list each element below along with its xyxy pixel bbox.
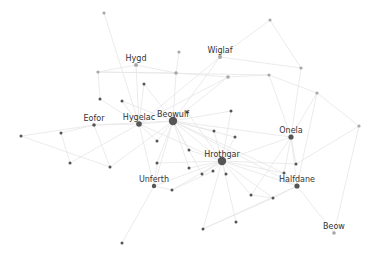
node-onela[interactable]: [288, 134, 293, 139]
edge-n16-n19: [21, 136, 110, 167]
edge-n1-hygelac: [104, 13, 139, 124]
node-n35[interactable]: [235, 221, 238, 224]
edge-n9-n10: [317, 93, 359, 126]
node-n12[interactable]: [99, 98, 102, 101]
node-n9[interactable]: [315, 91, 318, 94]
edge-n19-beowulf: [110, 121, 173, 167]
edge-n28-n27: [172, 171, 213, 190]
node-n2[interactable]: [268, 18, 271, 21]
node-label-hrothgar: Hrothgar: [204, 150, 240, 159]
node-n28[interactable]: [171, 189, 174, 192]
node-n23[interactable]: [213, 130, 216, 133]
node-n24[interactable]: [156, 162, 159, 165]
node-n18[interactable]: [69, 162, 72, 165]
edge-n17-n18: [61, 133, 70, 163]
node-n5[interactable]: [174, 71, 178, 75]
node-label-beow: Beow: [323, 222, 345, 231]
node-halfdane[interactable]: [294, 183, 299, 188]
node-n16[interactable]: [20, 135, 23, 138]
node-unferth[interactable]: [152, 184, 156, 188]
node-label-eofor: Eofor: [84, 114, 106, 123]
node-n11[interactable]: [143, 83, 146, 86]
node-n17[interactable]: [60, 132, 63, 135]
node-n27[interactable]: [212, 170, 215, 173]
edge-n4-n12: [98, 72, 100, 99]
node-n20[interactable]: [156, 140, 159, 143]
edge-beow-n10: [334, 126, 359, 233]
node-n10[interactable]: [357, 124, 360, 127]
edge-n6-n7: [228, 75, 269, 77]
edge-layer: [21, 13, 359, 243]
node-n37[interactable]: [121, 242, 124, 245]
node-n32[interactable]: [295, 163, 298, 166]
edge-n3-n5: [176, 52, 179, 73]
edge-n36-n34: [203, 198, 273, 229]
node-hygd[interactable]: [134, 63, 138, 67]
edge-hygd-n4: [98, 65, 136, 72]
edge-n2-n8: [270, 20, 301, 68]
edge-hygd-n5: [136, 65, 176, 73]
network-graph: BeowulfHrothgarHygelacOnelaHalfdaneUnfer…: [0, 0, 371, 268]
node-n4[interactable]: [96, 70, 99, 73]
edge-unferth-n28: [154, 186, 172, 190]
node-n15[interactable]: [230, 110, 233, 113]
node-label-halfdane: Halfdane: [279, 175, 315, 184]
node-hygelac[interactable]: [136, 121, 142, 127]
node-n22[interactable]: [234, 136, 237, 139]
node-n3[interactable]: [177, 50, 180, 53]
node-label-hygd: Hygd: [126, 54, 147, 63]
node-label-beowulf: Beowulf: [157, 110, 189, 119]
edge-eofor-n16: [21, 125, 94, 136]
node-n25[interactable]: [188, 167, 191, 170]
edge-n9-halfdane: [297, 93, 317, 186]
node-wiglaf[interactable]: [218, 55, 222, 59]
node-n36[interactable]: [202, 228, 205, 231]
node-beow[interactable]: [332, 231, 336, 235]
edge-wiglaf-n8: [220, 57, 301, 68]
edge-eofor-n19: [94, 125, 110, 167]
edge-hygelac-n20: [139, 124, 157, 141]
node-n33[interactable]: [250, 194, 253, 197]
node-n19[interactable]: [109, 166, 112, 169]
node-label-unferth: Unferth: [139, 175, 169, 184]
edge-hrothgar-n34: [222, 161, 273, 198]
edge-hrothgar-n35: [222, 161, 236, 222]
node-n30[interactable]: [225, 173, 228, 176]
node-n13[interactable]: [121, 100, 124, 103]
node-n21[interactable]: [188, 149, 191, 152]
node-n7[interactable]: [267, 73, 270, 76]
edge-unferth-n37: [122, 186, 154, 243]
node-n6[interactable]: [226, 75, 230, 79]
node-n34[interactable]: [272, 197, 275, 200]
node-n8[interactable]: [299, 66, 302, 69]
edge-n18-hygelac: [70, 124, 139, 163]
node-label-onela: Onela: [279, 126, 303, 135]
node-n26[interactable]: [201, 173, 204, 176]
edge-n7-n9: [269, 75, 317, 93]
node-eofor[interactable]: [92, 123, 96, 127]
node-label-wiglaf: Wiglaf: [208, 46, 233, 55]
node-label-hygelac: Hygelac: [123, 113, 155, 122]
node-n1[interactable]: [102, 11, 105, 14]
